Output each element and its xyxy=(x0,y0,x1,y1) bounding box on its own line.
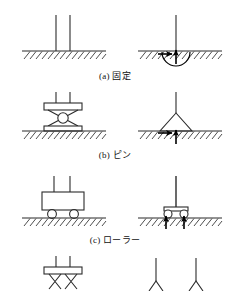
row-roller-reactions xyxy=(138,176,222,229)
ground-hatch-pin-left xyxy=(22,131,106,139)
partial-pin-left xyxy=(149,281,163,291)
diagram-canvas xyxy=(0,0,230,291)
row-partial-reactions xyxy=(149,258,203,291)
row-fixed-symbol xyxy=(22,15,106,59)
ground-hatch-roller-right xyxy=(138,218,222,226)
row-roller-symbol xyxy=(22,176,106,226)
partial-pin-right xyxy=(189,281,203,291)
partial-top-plate xyxy=(44,267,82,274)
support-type-figure: (a) 固定 (b) ピン (c) ローラー xyxy=(0,0,230,291)
ground-hatch-roller-left xyxy=(22,218,106,226)
ground-hatch-fixed-left xyxy=(22,51,106,59)
ground-hatch-fixed-right xyxy=(138,51,222,59)
caption-fixed: (a) 固定 xyxy=(0,69,230,82)
pin-bottom-plate xyxy=(44,126,82,131)
pin-circle xyxy=(58,113,68,123)
row-pin-reactions xyxy=(138,92,222,144)
roller-body xyxy=(42,192,84,210)
row-fixed-reactions xyxy=(138,15,222,66)
caption-pin: (b) ピン xyxy=(0,148,230,161)
partial-bowtie-braces xyxy=(49,274,77,289)
roller-wheel-right xyxy=(70,210,79,219)
pin-triangle xyxy=(160,113,192,131)
roller-wheel-left xyxy=(48,210,57,219)
row-partial-symbol xyxy=(44,256,82,289)
ground-hatch-pin-right xyxy=(138,131,222,139)
row-pin-symbol xyxy=(22,92,106,139)
pin-top-plate xyxy=(44,103,82,110)
caption-roller: (c) ローラー xyxy=(0,233,230,246)
